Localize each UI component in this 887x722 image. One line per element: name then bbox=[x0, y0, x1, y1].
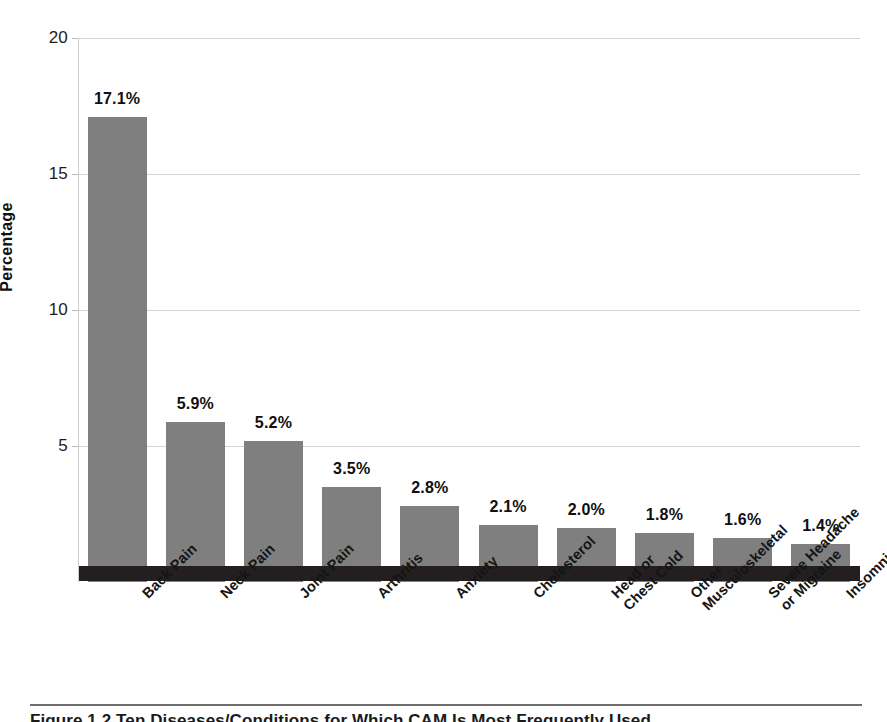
gridline bbox=[78, 174, 860, 175]
bar-value-label: 5.9% bbox=[150, 395, 240, 413]
x-axis-label-line: Neck Pain bbox=[217, 590, 229, 602]
x-axis-label-line: Other bbox=[687, 590, 699, 602]
x-axis-label: OtherMusculoskeletal bbox=[687, 590, 711, 614]
y-tick-label: 20 bbox=[28, 28, 68, 48]
x-axis-label: Insomnia bbox=[843, 590, 855, 602]
y-axis-title: Percentage bbox=[0, 202, 16, 291]
x-axis-label: Back Pain bbox=[139, 590, 151, 602]
y-tick-label: 10 bbox=[28, 300, 68, 320]
bar-value-label: 2.1% bbox=[463, 498, 553, 516]
x-axis-label: Arthritis bbox=[374, 590, 386, 602]
bar[interactable] bbox=[88, 117, 147, 582]
y-tick-label: 5 bbox=[28, 436, 68, 456]
x-axis-label-line: Anxiety bbox=[452, 590, 464, 602]
y-tick-label: 15 bbox=[28, 164, 68, 184]
y-tick-mark bbox=[72, 174, 78, 175]
gridline bbox=[78, 38, 860, 39]
x-axis-label-line: Chest Cold bbox=[620, 602, 632, 614]
x-axis-label-line: or Migraine bbox=[777, 602, 789, 614]
bar-value-label: 5.2% bbox=[229, 414, 319, 432]
figure-caption: Figure 1.2 Ten Diseases/Conditions for W… bbox=[30, 711, 870, 722]
caption-divider bbox=[30, 704, 862, 706]
gridline bbox=[78, 310, 860, 311]
y-tick-mark bbox=[72, 38, 78, 39]
x-axis-label-line: Musculoskeletal bbox=[698, 602, 710, 614]
x-axis-label-line: Severe Headache bbox=[765, 590, 777, 602]
bar-value-label: 2.8% bbox=[385, 479, 475, 497]
bar-value-label: 2.0% bbox=[541, 501, 631, 519]
x-axis-label: Head orChest Cold bbox=[608, 590, 632, 614]
figure-container: Percentage 17.1%5.9%5.2%3.5%2.8%2.1%2.0%… bbox=[0, 0, 887, 722]
plot-area: 17.1%5.9%5.2%3.5%2.8%2.1%2.0%1.8%1.6%1.4… bbox=[78, 38, 860, 582]
x-axis-label: Joint Pain bbox=[296, 590, 308, 602]
x-axis-label-line: Head or bbox=[608, 590, 620, 602]
bar-value-label: 3.5% bbox=[307, 460, 397, 478]
x-axis-label: Severe Headacheor Migraine bbox=[765, 590, 789, 614]
x-axis-label: Anxiety bbox=[452, 590, 464, 602]
x-axis-label-line: Back Pain bbox=[139, 590, 151, 602]
x-axis-label-line: Joint Pain bbox=[296, 590, 308, 602]
bar-value-label: 1.8% bbox=[620, 506, 710, 524]
y-tick-mark bbox=[72, 310, 78, 311]
x-axis-label: Cholesterol bbox=[530, 590, 542, 602]
x-axis-label-line: Arthritis bbox=[374, 590, 386, 602]
x-axis-label-line: Cholesterol bbox=[530, 590, 542, 602]
x-axis-label: Neck Pain bbox=[217, 590, 229, 602]
y-tick-mark bbox=[72, 446, 78, 447]
bar-value-label: 17.1% bbox=[72, 90, 162, 108]
x-axis-label-line: Insomnia bbox=[843, 590, 855, 602]
